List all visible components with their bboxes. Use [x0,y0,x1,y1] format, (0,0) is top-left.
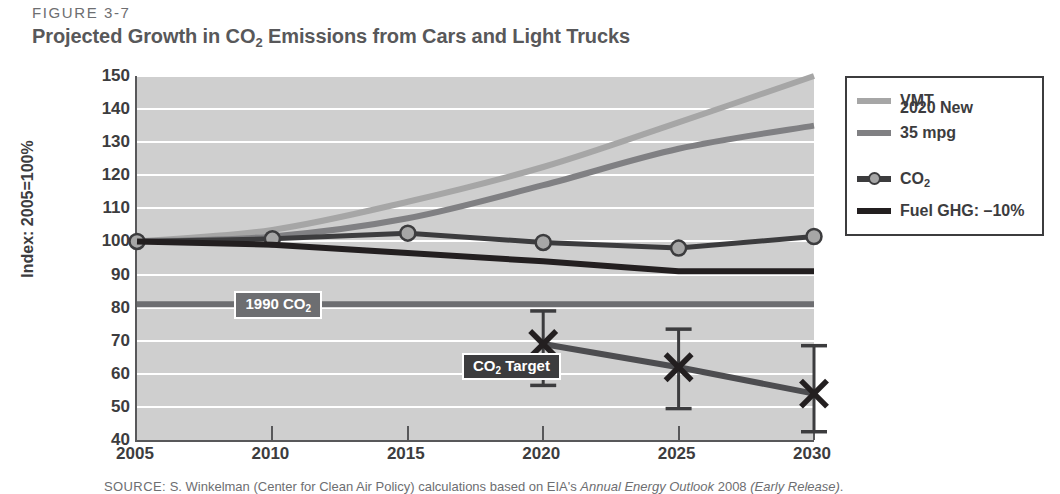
x-tick-label: 2015 [387,444,425,464]
y-tick-label: 140 [84,100,130,117]
y-axis-title: Index: 2005=100% [19,89,37,329]
source-italic-b: (Early Release) [750,479,840,494]
y-tick-label: 150 [84,67,130,84]
x-tick-label: 2030 [793,444,831,464]
y-tick-label: 130 [84,133,130,150]
legend-item[interactable]: Fuel GHG: –10% [857,202,1024,220]
source-text-c: . [840,479,844,494]
legend-label: Fuel GHG: –10% [900,202,1024,220]
x-tick-label: 2020 [522,444,560,464]
legend-marker-icon [868,172,881,185]
source-text-b: 2008 [714,479,750,494]
legend-label: 35 mpg [900,124,956,142]
source-prefix: SOURCE: [104,479,166,494]
y-tick-label: 110 [84,199,130,216]
source-note: SOURCE: S. Winkelman (Center for Clean A… [104,479,843,494]
legend-label-text: CO [900,170,924,187]
legend-label-line2: 2020 New [900,99,973,117]
y-tick-label: 120 [84,166,130,183]
legend-item[interactable]: CO2 [857,170,930,188]
y-tick-label: 50 [84,398,130,415]
y-tick-label: 60 [84,365,130,382]
data-point-marker [671,241,686,256]
legend-item-secondline: 2020 New [900,99,973,117]
legend-swatch-1 [857,98,891,104]
annotation-text: 1990 CO [245,295,305,312]
chart-legend: VMT35 mpg2020 NewCO2Fuel GHG: –10% [845,76,1044,236]
annotation-text: CO [473,357,496,374]
annotation-subscript: 2 [495,365,501,376]
data-point-marker [807,229,822,244]
plot-area: 1990 CO2CO2 Target [135,76,814,442]
annotation-text-2: Target [501,357,550,374]
data-point-marker [400,226,415,241]
source-italic-a: Annual Energy Outlook [580,479,714,494]
y-axis-tick-labels: 405060708090100110120130140150 [78,0,130,494]
chart-annotation-1990-co2: 1990 CO2 [234,291,322,319]
y-tick-label: 100 [84,232,130,249]
legend-label-text: 35 mpg [900,124,956,141]
source-text-a: S. Winkelman (Center for Clean Air Polic… [166,479,580,494]
series-layer [137,76,814,440]
y-tick-label: 70 [84,332,130,349]
x-tick-label: 2010 [251,444,289,464]
annotation-subscript: 2 [306,303,312,314]
x-tick-label: 2005 [116,444,154,464]
x-tick-label: 2025 [658,444,696,464]
legend-item[interactable]: 35 mpg [857,124,956,142]
chart-annotation-co2-target: CO2 Target [462,353,561,381]
y-tick-label: 90 [84,266,130,283]
legend-label-text: Fuel GHG: –10% [900,202,1024,219]
legend-label: CO2 [900,170,930,188]
series-line [137,76,814,241]
legend-swatch-4 [857,208,891,214]
chart-container: 1990 CO2CO2 Target 405060708090100110120… [0,0,1060,494]
data-point-marker [536,235,551,250]
legend-label-subscript: 2 [924,177,930,189]
legend-swatch-2 [857,130,891,136]
y-tick-label: 80 [84,299,130,316]
legend-swatch-3 [857,176,891,182]
